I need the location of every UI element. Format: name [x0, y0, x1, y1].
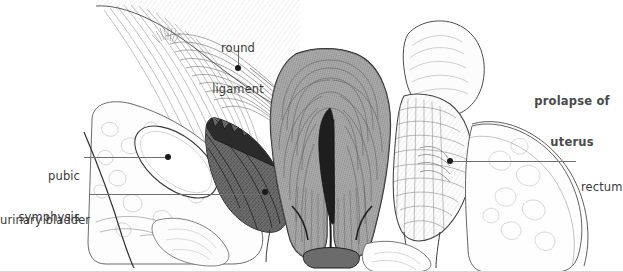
label-prolapse-of-uterus-line1: prolapse of [520, 95, 623, 109]
dot-pubic-symphysis [165, 154, 171, 160]
prolapsed-uterus [262, 44, 402, 268]
label-prolapse-of-uterus-line2: uterus [520, 136, 623, 150]
anatomy-figure: round ligament prolapse of uterus pubic … [0, 0, 623, 272]
dot-urinary-bladder [262, 189, 268, 195]
label-round-ligament-line1: round [198, 42, 278, 56]
label-round-ligament-line2: ligament [198, 83, 278, 97]
label-urinary-bladder: urinary bladder [0, 187, 85, 255]
label-rectum-line1: rectum [581, 181, 623, 195]
perineal-body [362, 241, 430, 272]
label-pubic-symphysis-line1: pubic [0, 170, 80, 184]
label-round-ligament: round ligament [198, 15, 278, 123]
leader-urinary-bladder [89, 194, 266, 195]
dot-rectum [447, 158, 453, 164]
label-rectum: rectum [581, 154, 623, 222]
label-urinary-bladder-line1: urinary bladder [0, 214, 85, 228]
leader-pubic-symphysis [84, 157, 169, 158]
